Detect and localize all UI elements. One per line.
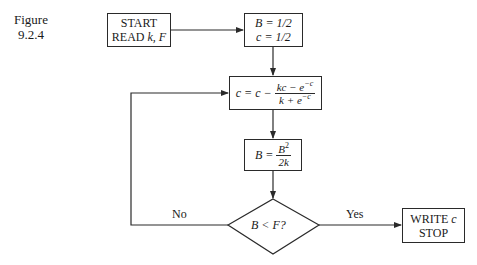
denominator-text: k + e [279,94,302,106]
init-node: B = 1/2 c = 1/2 [244,13,303,47]
no-label: No [172,207,187,222]
write-label: WRITE c [410,212,456,226]
update-c-denominator: k + e−c [277,94,313,106]
read-keyword: READ [112,30,148,44]
update-c-lhs: c = c − [236,86,272,100]
end-node: WRITE c STOP [402,208,465,243]
read-label: READ k, F [112,30,166,44]
read-vars: k, F [148,30,167,44]
init-b: B = 1/2 [255,16,292,30]
stop-label: STOP [419,226,448,240]
update-c-equation: c = c − kc − e−c k + e−c [236,81,315,106]
denominator-exp: −c [302,92,311,101]
b-denominator-text: 2k [279,156,289,168]
write-keyword: WRITE [410,212,451,226]
numerator-text: kc − e [277,81,305,93]
init-c: c = 1/2 [256,30,291,44]
write-var: c [451,212,456,226]
decision-text: B < F? [251,218,286,233]
b-numerator-exp: 2 [285,141,289,150]
edge-no-loop [131,93,228,225]
start-label: START [121,16,157,30]
update-b-node: B = B2 2k [244,139,302,171]
update-c-fraction: kc − e−c k + e−c [275,81,316,106]
update-b-equation: B = B2 2k [255,143,291,168]
update-b-lhs: B = [255,148,273,162]
numerator-exp: −c [304,79,313,88]
update-c-node: c = c − kc − e−c k + e−c [229,76,322,110]
update-b-denominator: 2k [277,156,291,168]
update-b-fraction: B2 2k [276,143,291,168]
yes-label: Yes [346,207,363,222]
start-node: START READ k, F [107,13,171,47]
update-b-numerator: B2 [276,143,291,156]
